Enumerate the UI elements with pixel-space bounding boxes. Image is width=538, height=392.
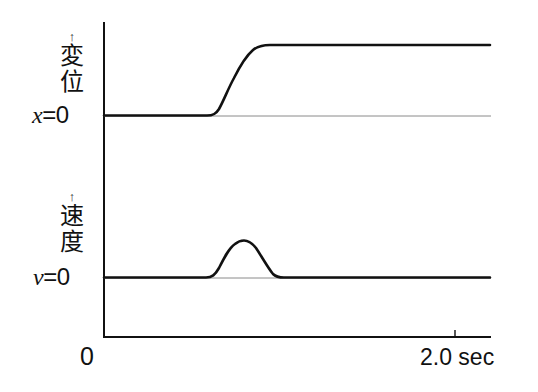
displacement-axis-name: ↑ 変 位 (55, 32, 89, 95)
physics-figure: ↑ 変 位 ↑ 速 度 x=0 v=0 0 2.0 sec (0, 0, 538, 392)
velocity-axis-char-1: 速 (55, 203, 89, 229)
velocity-axis-name-chars: 速 度 (55, 203, 89, 255)
x-axis-max-label: 2.0 sec (420, 346, 494, 369)
displacement-variable-symbol: x (32, 102, 42, 128)
displacement-equals-sign: = (42, 101, 56, 128)
velocity-zero-value: 0 (57, 263, 70, 290)
displacement-curve (104, 45, 490, 116)
x-axis-origin-label: 0 (80, 344, 94, 369)
velocity-equals-sign: = (43, 263, 57, 290)
velocity-zero-label: v=0 (33, 265, 70, 289)
velocity-axis-char-2: 度 (55, 229, 89, 255)
velocity-axis-name: ↑ 速 度 (55, 192, 89, 255)
velocity-curve (104, 241, 490, 278)
displacement-zero-label: x=0 (32, 103, 69, 127)
displacement-zero-value: 0 (56, 101, 69, 128)
displacement-axis-name-chars: 変 位 (55, 43, 89, 95)
displacement-axis-char-1: 変 (55, 43, 89, 69)
velocity-variable-symbol: v (33, 264, 43, 290)
displacement-axis-char-2: 位 (55, 69, 89, 95)
